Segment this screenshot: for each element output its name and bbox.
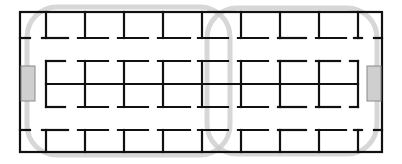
left-loop-path: [27, 7, 230, 155]
bottom-room-row: [20, 130, 382, 152]
floor-plan-diagram: [0, 0, 402, 164]
right-dock-station: [367, 66, 381, 101]
middle-room-block: [46, 61, 358, 107]
top-room-row: [20, 12, 382, 38]
left-dock-station: [21, 66, 35, 101]
